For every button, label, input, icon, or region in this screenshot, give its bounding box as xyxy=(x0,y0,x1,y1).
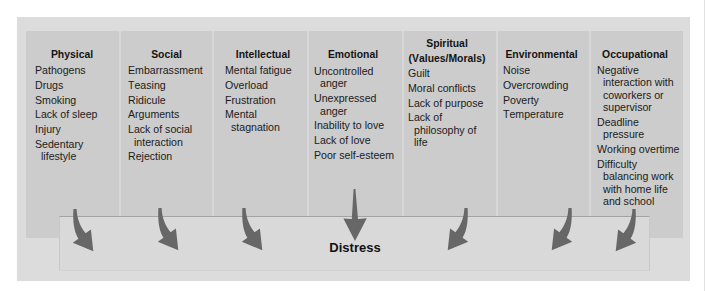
stressor-item: Arguments xyxy=(128,108,210,120)
column-heading: Environmental xyxy=(492,48,592,62)
column-intellectual: Intellectual Mental fatigue Overload Fru… xyxy=(214,31,308,216)
column-heading-subtitle: (Values/Morals) xyxy=(397,52,497,67)
stressor-list: Negative interaction with coworkers or s… xyxy=(597,64,681,210)
column-heading-title: Spiritual xyxy=(397,37,497,52)
column-heading: Occupational xyxy=(585,48,685,62)
stressor-item: Lack of love xyxy=(314,134,399,146)
column-social: Social Embarrassment Teasing Ridicule Ar… xyxy=(121,31,213,216)
stressor-item: Overload xyxy=(225,79,301,91)
column-environmental: Environmental Noise Overcrowding Poverty… xyxy=(498,31,590,216)
stressor-item: Ridicule xyxy=(128,94,210,106)
stressor-item: Lack of purpose xyxy=(408,97,488,109)
stressor-item: Frustration xyxy=(225,94,301,106)
stressor-list: Mental fatigue Overload Frustration Ment… xyxy=(225,64,301,136)
stressor-item: Inability to love xyxy=(314,119,399,131)
stressor-item: Deadline pressure xyxy=(597,116,681,141)
page-edge-line xyxy=(704,0,705,291)
column-heading: Emotional xyxy=(303,48,403,62)
stressor-item: Noise xyxy=(503,64,583,76)
column-occupational: Occupational Negative interaction with c… xyxy=(591,31,683,216)
stressor-item: Moral conflicts xyxy=(408,82,488,94)
column-heading: Social xyxy=(117,48,217,62)
column-physical: Physical Pathogens Drugs Smoking Lack of… xyxy=(26,31,120,216)
stressor-item: Rejection xyxy=(128,150,210,162)
column-spiritual: Spiritual (Values/Morals) Guilt Moral co… xyxy=(404,31,497,216)
stressor-item: Overcrowding xyxy=(503,79,583,91)
stressor-item: Embarrassment xyxy=(128,64,210,76)
stressor-item: Lack of social interaction xyxy=(128,123,210,148)
stressor-item: Temperature xyxy=(503,108,583,120)
stressor-item: Uncontrolled anger xyxy=(314,65,399,90)
stressor-item: Mental fatigue xyxy=(225,64,301,76)
stressor-item: Difficulty balancing work with home life… xyxy=(597,158,681,208)
stressor-item: Mental stagnation xyxy=(225,108,301,133)
stressor-item: Pathogens xyxy=(35,64,113,76)
stressor-list: Uncontrolled anger Unexpressed anger Ina… xyxy=(314,65,399,164)
stressor-item: Negative interaction with coworkers or s… xyxy=(597,64,681,114)
stressor-list: Noise Overcrowding Poverty Temperature xyxy=(503,64,583,123)
column-emotional: Emotional Uncontrolled anger Unexpressed… xyxy=(309,31,403,216)
stressor-item: Lack of philosophy of life xyxy=(408,111,488,148)
stressor-item: Lack of sleep xyxy=(35,108,113,120)
column-heading: Physical xyxy=(22,48,122,62)
stressor-item: Teasing xyxy=(128,79,210,91)
stressor-item: Guilt xyxy=(408,67,488,79)
stressor-item: Poor self-esteem xyxy=(314,149,399,161)
distress-label: Distress xyxy=(305,240,405,255)
stressor-item: Unexpressed anger xyxy=(314,92,399,117)
stressor-list: Guilt Moral conflicts Lack of purpose La… xyxy=(408,67,488,151)
stressor-item: Injury xyxy=(35,123,113,135)
stressor-item: Working overtime xyxy=(597,143,681,155)
stressor-item: Smoking xyxy=(35,94,113,106)
stressor-list: Pathogens Drugs Smoking Lack of sleep In… xyxy=(35,64,113,165)
column-heading: Spiritual (Values/Morals) xyxy=(397,37,497,66)
column-heading: Intellectual xyxy=(213,48,313,62)
stressor-item: Poverty xyxy=(503,94,583,106)
stressor-item: Sedentary lifestyle xyxy=(35,138,113,163)
stressor-item: Drugs xyxy=(35,79,113,91)
stressor-list: Embarrassment Teasing Ridicule Arguments… xyxy=(128,64,210,165)
